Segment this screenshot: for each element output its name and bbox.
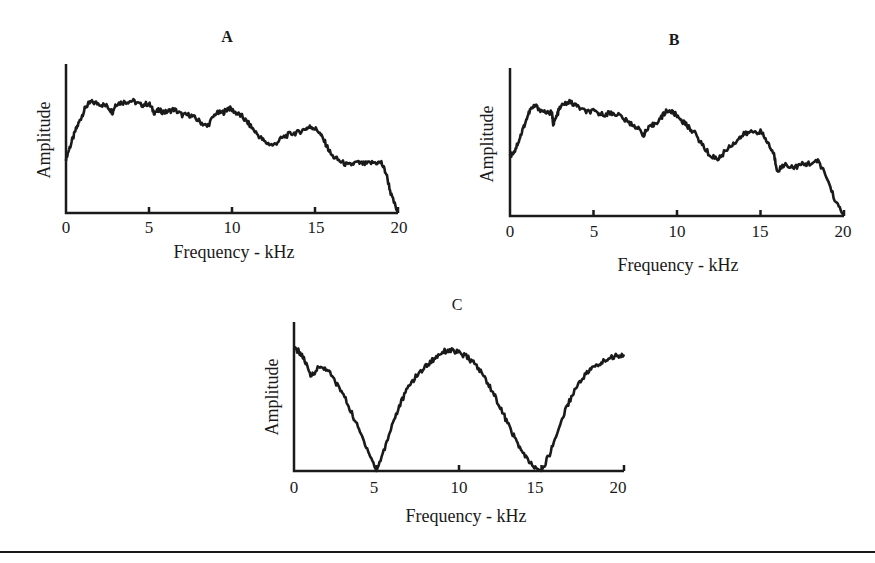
axis-lines (510, 68, 844, 216)
panel-a-plot (66, 64, 398, 213)
figure-canvas (0, 0, 875, 563)
spectrum-line (510, 100, 844, 216)
spectrum-line (66, 99, 398, 213)
spectrum-line (294, 347, 624, 471)
panel-c-plot (294, 322, 624, 471)
bottom-rule (0, 551, 875, 553)
panel-b-plot (510, 68, 844, 216)
axis-lines (66, 64, 398, 213)
